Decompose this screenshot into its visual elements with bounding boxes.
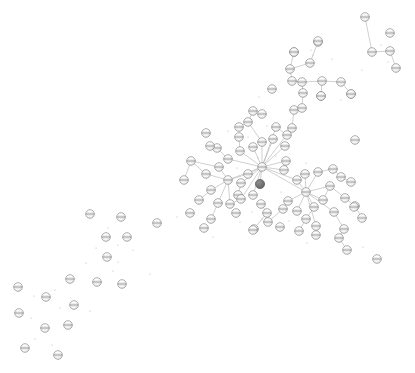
graph-node[interactable] (279, 205, 288, 214)
graph-node[interactable] (386, 47, 395, 56)
graph-node[interactable] (288, 124, 297, 133)
graph-node[interactable] (66, 275, 75, 284)
graph-node[interactable] (269, 135, 278, 144)
graph-node[interactable] (153, 219, 162, 228)
graph-node[interactable] (226, 200, 235, 209)
graph-node[interactable] (237, 195, 246, 204)
graph-node[interactable] (386, 29, 395, 38)
graph-node[interactable] (215, 163, 224, 172)
graph-node[interactable] (237, 179, 246, 188)
graph-node[interactable] (64, 321, 73, 330)
graph-node[interactable] (206, 142, 215, 151)
graph-node[interactable] (257, 200, 266, 209)
graph-node[interactable] (284, 197, 293, 206)
graph-node[interactable] (340, 225, 349, 234)
graph-node[interactable] (202, 129, 211, 138)
graph-node[interactable] (235, 123, 244, 132)
graph-node[interactable] (21, 344, 30, 353)
graph-node[interactable] (314, 37, 323, 46)
graph-node[interactable] (103, 253, 112, 262)
graph-node[interactable] (310, 203, 319, 212)
graph-node[interactable] (351, 136, 360, 145)
graph-node[interactable] (358, 214, 367, 223)
graph-node[interactable] (258, 163, 267, 172)
graph-node[interactable] (312, 222, 321, 231)
graph-node[interactable] (302, 215, 311, 224)
graph-node[interactable] (295, 227, 304, 236)
graph-node[interactable] (329, 165, 338, 174)
graph-node[interactable] (86, 210, 95, 219)
graph-node[interactable] (15, 309, 24, 318)
graph-node[interactable] (42, 293, 51, 302)
graph-node[interactable] (224, 176, 233, 185)
graph-node[interactable] (293, 176, 302, 185)
graph-node[interactable] (200, 224, 209, 233)
graph-node[interactable] (302, 188, 311, 197)
graph-node[interactable] (118, 280, 127, 289)
graph-node[interactable] (244, 170, 253, 179)
graph-node[interactable] (361, 13, 370, 22)
graph-node[interactable] (306, 59, 315, 68)
graph-node[interactable] (41, 324, 50, 333)
graph-node[interactable] (249, 143, 258, 152)
graph-node[interactable] (207, 186, 216, 195)
graph-node[interactable] (268, 85, 277, 94)
graph-node[interactable] (368, 48, 377, 57)
graph-node[interactable] (281, 142, 290, 151)
graph-node[interactable] (314, 168, 323, 177)
graph-node[interactable] (258, 110, 267, 119)
graph-node[interactable] (249, 107, 258, 116)
graph-node[interactable] (282, 157, 291, 166)
graph-node[interactable] (319, 196, 328, 205)
graph-node[interactable] (347, 90, 356, 99)
graph-node[interactable] (202, 170, 211, 179)
graph-node[interactable] (195, 196, 204, 205)
graph-node[interactable] (224, 155, 233, 164)
graph-node[interactable] (337, 173, 346, 182)
graph-node[interactable] (298, 78, 307, 87)
graph-node[interactable] (235, 133, 244, 142)
graph-node[interactable] (326, 182, 335, 191)
graph-node[interactable] (288, 77, 297, 86)
graph-node[interactable] (276, 223, 285, 232)
graph-node[interactable] (117, 213, 126, 222)
graph-node[interactable] (335, 234, 344, 243)
graph-node[interactable] (343, 246, 352, 255)
graph-node[interactable] (258, 138, 267, 147)
graph-node[interactable] (301, 170, 310, 179)
graph-node[interactable] (249, 191, 258, 200)
graph-node[interactable] (350, 203, 359, 212)
graph-node[interactable] (290, 48, 299, 57)
graph-node[interactable] (280, 166, 289, 175)
graph-node[interactable] (187, 157, 196, 166)
graph-node[interactable] (330, 208, 339, 217)
graph-node[interactable] (54, 351, 63, 360)
graph-node[interactable] (123, 233, 132, 242)
graph-node[interactable] (298, 104, 307, 113)
graph-node[interactable] (186, 209, 195, 218)
graph-node[interactable] (293, 207, 302, 216)
graph-node[interactable] (373, 255, 382, 264)
graph-node[interactable] (290, 106, 299, 115)
graph-node[interactable] (341, 194, 350, 203)
graph-node[interactable] (244, 118, 253, 127)
graph-node[interactable] (180, 176, 189, 185)
graph-node[interactable] (286, 65, 295, 74)
graph-node[interactable] (347, 178, 356, 187)
graph-node[interactable] (317, 92, 326, 101)
graph-node[interactable] (392, 64, 401, 73)
graph-node[interactable] (299, 89, 308, 98)
graph-node[interactable] (207, 215, 216, 224)
graph-node[interactable] (214, 199, 223, 208)
graph-node[interactable] (14, 283, 23, 292)
graph-node[interactable] (318, 77, 327, 86)
graph-node[interactable] (272, 123, 281, 132)
graph-node[interactable] (312, 231, 321, 240)
graph-node[interactable] (263, 209, 272, 218)
graph-node-highlighted[interactable] (255, 179, 264, 188)
graph-node[interactable] (232, 209, 241, 218)
graph-node[interactable] (337, 78, 346, 87)
graph-node[interactable] (102, 233, 111, 242)
graph-node[interactable] (70, 301, 79, 310)
graph-node[interactable] (264, 218, 273, 227)
